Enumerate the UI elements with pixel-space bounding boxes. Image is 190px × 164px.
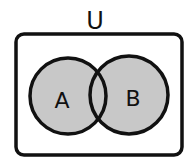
venn-diagram: U A B (0, 0, 190, 164)
set-b-label: B (125, 86, 140, 111)
set-a-label: A (54, 88, 69, 113)
universe-label: U (86, 7, 104, 35)
